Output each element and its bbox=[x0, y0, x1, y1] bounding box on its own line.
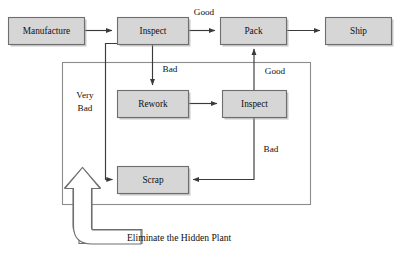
edge-label-good-lower: Good bbox=[265, 66, 286, 76]
node-rework-label: Rework bbox=[138, 99, 168, 109]
node-ship[interactable]: Ship bbox=[326, 18, 394, 47]
node-ship-label: Ship bbox=[350, 26, 367, 36]
node-inspect-top-label: Inspect bbox=[140, 26, 167, 36]
node-scrap-label: Scrap bbox=[142, 175, 164, 185]
flowchart-canvas: Manufacture Inspect Pack Ship Rework bbox=[0, 0, 404, 267]
node-scrap[interactable]: Scrap bbox=[118, 167, 191, 196]
hidden-plant-flowchart: Manufacture Inspect Pack Ship Rework bbox=[0, 0, 404, 267]
edge-label-bad-top: Bad bbox=[163, 64, 178, 74]
node-inspect-lower-label: Inspect bbox=[241, 99, 268, 109]
node-inspect-lower[interactable]: Inspect bbox=[223, 91, 289, 120]
edge-label-very-bad-line2: Bad bbox=[78, 103, 93, 113]
edge-inspect-low-to-scrap-bad bbox=[193, 117, 254, 180]
node-rework[interactable]: Rework bbox=[118, 91, 191, 120]
edge-label-bad-lower: Bad bbox=[264, 144, 279, 154]
node-pack-label: Pack bbox=[244, 26, 262, 36]
edge-label-very-bad-line1: Very bbox=[76, 90, 94, 100]
node-pack[interactable]: Pack bbox=[221, 18, 289, 47]
node-inspect-top[interactable]: Inspect bbox=[118, 18, 191, 47]
edge-inspect-to-scrap-very-bad bbox=[106, 44, 118, 180]
node-manufacture[interactable]: Manufacture bbox=[9, 18, 87, 47]
edge-label-good-top: Good bbox=[194, 7, 215, 17]
node-manufacture-label: Manufacture bbox=[23, 26, 71, 36]
caption-eliminate-hidden-plant: Eliminate the Hidden Plant bbox=[127, 232, 232, 243]
